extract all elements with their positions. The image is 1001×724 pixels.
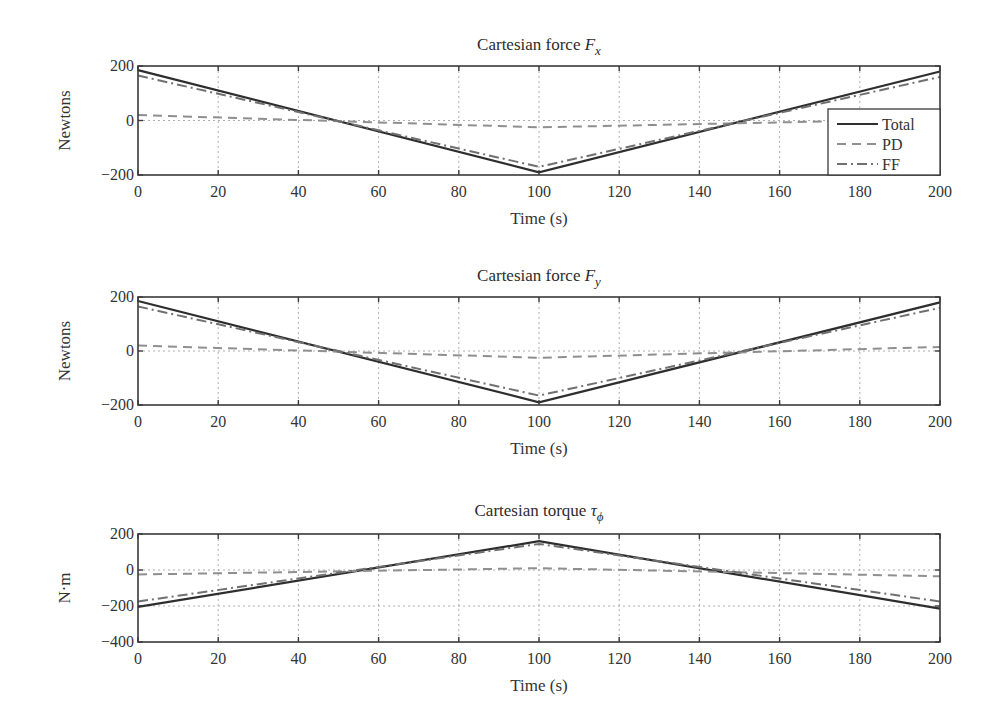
x-tick-label: 0 — [134, 183, 142, 200]
legend-label: PD — [882, 136, 902, 153]
x-tick-label: 180 — [848, 650, 872, 667]
x-tick-label: 100 — [527, 183, 551, 200]
x-tick-label: 140 — [687, 650, 711, 667]
y-tick-label: −200 — [101, 396, 134, 413]
x-tick-label: 160 — [768, 650, 792, 667]
x-tick-label: 80 — [451, 183, 467, 200]
x-tick-label: 20 — [210, 650, 226, 667]
y-tick-label: −200 — [101, 166, 134, 183]
y-axis-label: N·m — [55, 572, 74, 603]
plot-title: Cartesian force Fx — [477, 35, 601, 58]
x-tick-label: 100 — [527, 650, 551, 667]
x-tick-label: 100 — [527, 413, 551, 430]
plot-title: Cartesian torque τϕ — [475, 501, 604, 524]
x-tick-label: 200 — [928, 183, 952, 200]
x-tick-label: 120 — [607, 650, 631, 667]
x-tick-label: 0 — [134, 413, 142, 430]
y-tick-label: 0 — [126, 561, 134, 578]
y-tick-label: 200 — [110, 288, 134, 305]
subplot-3: 0204060801001201401601802002000−200−400C… — [55, 501, 952, 695]
y-tick-label: 200 — [110, 57, 134, 74]
y-axis-label: Newtons — [55, 90, 74, 150]
legend: TotalPDFF — [828, 109, 940, 175]
x-tick-label: 80 — [451, 650, 467, 667]
figure-canvas: 0204060801001201401601802002000−200Carte… — [0, 0, 1001, 724]
y-tick-label: −400 — [101, 633, 134, 650]
y-tick-label: 0 — [126, 342, 134, 359]
x-tick-label: 60 — [371, 183, 387, 200]
x-tick-label: 40 — [290, 413, 306, 430]
y-axis-label: Newtons — [55, 321, 74, 381]
x-tick-label: 40 — [290, 650, 306, 667]
x-tick-label: 60 — [371, 413, 387, 430]
x-axis-label: Time (s) — [510, 676, 567, 695]
x-tick-label: 180 — [848, 413, 872, 430]
x-tick-label: 200 — [928, 413, 952, 430]
plot-title: Cartesian force Fy — [477, 266, 601, 289]
x-axis-label: Time (s) — [510, 209, 567, 228]
subplot-1: 0204060801001201401601802002000−200Carte… — [55, 35, 952, 228]
x-tick-label: 60 — [371, 650, 387, 667]
x-axis-label: Time (s) — [510, 439, 567, 458]
subplot-2: 0204060801001201401601802002000−200Carte… — [55, 266, 952, 458]
x-tick-label: 120 — [607, 183, 631, 200]
x-tick-label: 140 — [687, 413, 711, 430]
x-tick-label: 200 — [928, 650, 952, 667]
legend-label: Total — [882, 116, 915, 133]
x-tick-label: 120 — [607, 413, 631, 430]
x-tick-label: 80 — [451, 413, 467, 430]
x-tick-label: 160 — [768, 413, 792, 430]
y-tick-label: 0 — [126, 112, 134, 129]
x-tick-label: 140 — [687, 183, 711, 200]
y-tick-label: −200 — [101, 597, 134, 614]
y-tick-label: 200 — [110, 525, 134, 542]
x-tick-label: 20 — [210, 183, 226, 200]
x-tick-label: 160 — [768, 183, 792, 200]
grid-lines — [138, 66, 940, 175]
x-tick-label: 180 — [848, 183, 872, 200]
x-tick-label: 0 — [134, 650, 142, 667]
x-tick-label: 40 — [290, 183, 306, 200]
x-tick-label: 20 — [210, 413, 226, 430]
legend-label: FF — [882, 156, 900, 173]
